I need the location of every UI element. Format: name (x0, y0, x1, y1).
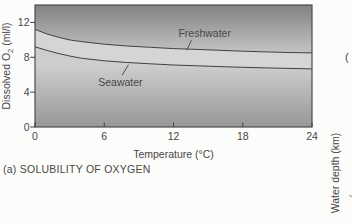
x-tick-label: 18 (237, 130, 249, 142)
annotation-freshwater-label: Freshwater (178, 27, 231, 39)
y-tick-label: 0 (24, 121, 30, 133)
figure-caption: (a) SOLUBILITY OF OXYGEN (3, 163, 151, 175)
y-axis-title: Dissolved O2 (ml/l) (0, 22, 15, 109)
y-tick-label: 12 (18, 16, 30, 28)
x-tick-label: 24 (306, 130, 318, 142)
x-tick-label: 12 (168, 130, 180, 142)
y-tick-label: 4 (24, 86, 30, 98)
adjacent-figure-text-fragment: ( (345, 51, 349, 63)
x-axis-title: Temperature (°C) (133, 148, 214, 160)
oxygen-solubility-chart: 06121824 04812 FreshwaterSeawater Temper… (0, 0, 352, 224)
y-axis-title-suffix: (ml/l) (0, 22, 12, 48)
figure-panel: 06121824 04812 FreshwaterSeawater Temper… (0, 0, 352, 224)
annotation-seawater-label: Seawater (98, 76, 143, 88)
y-tick-label: 8 (24, 51, 30, 63)
x-tick-label: 6 (101, 130, 107, 142)
y-axis-title-prefix: Dissolved O (0, 53, 12, 110)
y-axis-ticks: 04812 (18, 16, 35, 133)
x-tick-label: 0 (32, 130, 38, 142)
adjacent-figure-water-depth-label: Water depth (km) (329, 133, 341, 214)
